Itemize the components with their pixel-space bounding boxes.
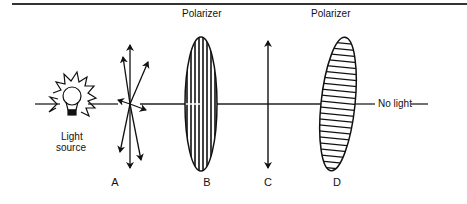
no-light-label: No light bbox=[378, 98, 412, 109]
polarizer-d-label: Polarizer bbox=[311, 8, 350, 19]
light-source-label-line1: Light bbox=[61, 131, 83, 142]
stage-letter-d: D bbox=[327, 176, 347, 188]
unpolarized-light-arrows bbox=[118, 45, 148, 168]
polarizer-d bbox=[310, 34, 370, 178]
light-bulb-icon bbox=[49, 72, 96, 116]
polarizer-b-label: Polarizer bbox=[182, 8, 221, 19]
stage-letter-c: C bbox=[258, 176, 278, 188]
stage-letter-b: B bbox=[197, 176, 217, 188]
polarizer-b bbox=[185, 30, 217, 180]
stage-letter-a: A bbox=[105, 176, 125, 188]
light-source-label-line2: source bbox=[56, 142, 86, 153]
